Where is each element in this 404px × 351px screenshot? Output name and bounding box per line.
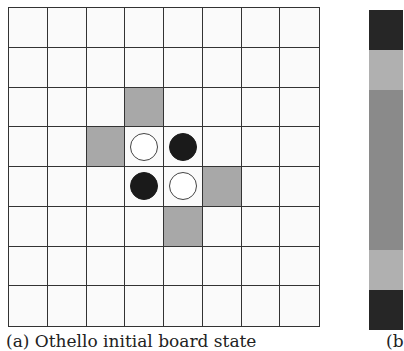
board-cell xyxy=(87,8,126,48)
board-cell xyxy=(125,167,164,207)
board-cell xyxy=(242,286,281,326)
board-cell xyxy=(125,207,164,247)
board-cell xyxy=(164,286,203,326)
board-cell xyxy=(203,8,242,48)
board-cell xyxy=(242,207,281,247)
board-cell xyxy=(125,8,164,48)
board-cell xyxy=(280,286,319,326)
board-cell xyxy=(9,167,48,207)
board-cell xyxy=(48,247,87,287)
board-cell xyxy=(280,167,319,207)
strip-band xyxy=(369,290,403,330)
board-cell-legal-move xyxy=(125,88,164,128)
board-cell xyxy=(203,247,242,287)
white-disc-icon xyxy=(130,133,158,161)
board-cell xyxy=(125,286,164,326)
board-cell xyxy=(164,167,203,207)
board-cell xyxy=(48,167,87,207)
board-cell xyxy=(48,8,87,48)
board-cell xyxy=(203,88,242,128)
strip-band xyxy=(369,250,403,290)
board-cell xyxy=(125,48,164,88)
board-cell xyxy=(242,88,281,128)
grayscale-strip xyxy=(369,10,403,330)
board-cell xyxy=(164,88,203,128)
caption-a: (a) Othello initial board state xyxy=(6,331,256,351)
board-cell xyxy=(280,8,319,48)
board-cell xyxy=(9,127,48,167)
strip-band xyxy=(369,90,403,250)
board-cell xyxy=(164,127,203,167)
board-cell xyxy=(9,48,48,88)
board-cell-legal-move xyxy=(87,127,126,167)
board-cell xyxy=(9,207,48,247)
board-cell xyxy=(9,247,48,287)
board-cell xyxy=(280,247,319,287)
board-cell xyxy=(87,48,126,88)
board-cell xyxy=(87,207,126,247)
board-cell xyxy=(9,8,48,48)
board-cell xyxy=(280,127,319,167)
board-cell xyxy=(48,127,87,167)
board-cell xyxy=(280,48,319,88)
board-cell xyxy=(203,127,242,167)
board-cell xyxy=(164,247,203,287)
board-cell xyxy=(9,286,48,326)
board-cell xyxy=(242,247,281,287)
othello-board xyxy=(8,7,320,327)
board-cell xyxy=(125,247,164,287)
black-disc-icon xyxy=(130,172,158,200)
board-cell xyxy=(242,8,281,48)
black-disc-icon xyxy=(169,133,197,161)
board-cell xyxy=(87,286,126,326)
board-cell xyxy=(242,167,281,207)
board-cell xyxy=(164,48,203,88)
board-cell xyxy=(87,247,126,287)
board-cell xyxy=(203,286,242,326)
board-cell xyxy=(125,127,164,167)
board-cell-legal-move xyxy=(203,167,242,207)
board-cell xyxy=(280,207,319,247)
board-cell xyxy=(48,286,87,326)
strip-band xyxy=(369,50,403,90)
board-cell xyxy=(203,48,242,88)
caption-b: (b xyxy=(386,331,404,351)
board-cell xyxy=(48,207,87,247)
board-cell xyxy=(9,88,48,128)
strip-band xyxy=(369,10,403,50)
board-cell xyxy=(87,88,126,128)
board-cell xyxy=(87,167,126,207)
board-cell xyxy=(48,48,87,88)
board-cell xyxy=(203,207,242,247)
board-cell xyxy=(242,127,281,167)
board-cell xyxy=(48,88,87,128)
white-disc-icon xyxy=(169,172,197,200)
board-cell-legal-move xyxy=(164,207,203,247)
board-cell xyxy=(242,48,281,88)
board-cell xyxy=(164,8,203,48)
board-cell xyxy=(280,88,319,128)
